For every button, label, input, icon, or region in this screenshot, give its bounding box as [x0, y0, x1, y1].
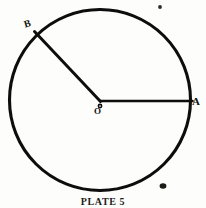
plate-caption: PLATE 5	[0, 196, 206, 207]
vertex-label-o: O	[94, 107, 101, 116]
radius-ob-line	[35, 32, 101, 102]
stray-ink-mark-top-icon	[158, 5, 162, 9]
vertex-label-a: A	[192, 96, 200, 107]
stray-ink-mark-bottom-icon	[160, 183, 167, 188]
circle-diagram-canvas	[0, 0, 206, 208]
plate-figure: A B O PLATE 5	[0, 0, 206, 208]
